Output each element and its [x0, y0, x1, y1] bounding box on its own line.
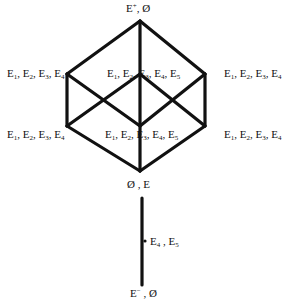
label-top: E+, Ø — [126, 2, 150, 14]
label-left-upper: E1, E2, E3, E4 — [7, 67, 64, 79]
label-left-lower: E1, E2, E3, E4 — [7, 128, 64, 140]
label-bottom-cube: Ø , E — [127, 178, 150, 190]
label-top-rest: , Ø — [137, 2, 150, 14]
label-chain-bottom: E− , Ø — [130, 287, 157, 299]
label-right-upper: E1, E2, E3, E4 — [224, 67, 281, 79]
label-chain-bottom-base: E — [130, 287, 137, 299]
label-center-upper: E1, E2, E3, E4, E5 — [107, 67, 180, 79]
label-top-base: E — [126, 2, 133, 14]
label-chain-bottom-rest: , Ø — [141, 287, 157, 299]
chain-dot — [143, 239, 146, 242]
label-right-lower: E1, E2, E3, E4 — [224, 128, 281, 140]
label-chain-mid: E4 , E5 — [150, 235, 179, 247]
label-center-lower: E1, E2, E3, E4, E5 — [105, 128, 178, 140]
lattice-diagram — [0, 0, 288, 300]
